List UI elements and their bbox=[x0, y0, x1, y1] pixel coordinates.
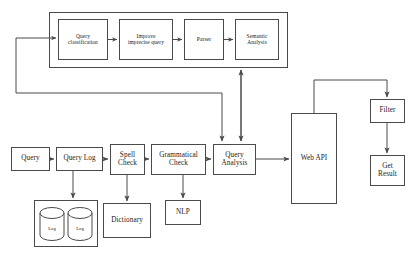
node-query-classification[interactable]: Queryclassification bbox=[58, 19, 108, 60]
node-web-api[interactable]: Web API bbox=[291, 113, 337, 204]
node-dictionary[interactable]: Dictionary bbox=[103, 203, 151, 238]
node-parser[interactable]: Parser bbox=[184, 19, 224, 60]
cylinder-log-store-2[interactable]: Log bbox=[67, 207, 93, 241]
edge-understanding-group-to-query-analysis-bus bbox=[16, 93, 222, 141]
database-icon bbox=[39, 207, 65, 241]
node-query-log[interactable]: Query Log bbox=[56, 147, 103, 171]
node-query[interactable]: Query bbox=[11, 147, 50, 171]
node-nlp[interactable]: NLP bbox=[165, 200, 201, 225]
cylinder-log-store-2-label: Log bbox=[67, 226, 93, 231]
node-query-analysis[interactable]: QueryAnalysis bbox=[213, 144, 256, 175]
cylinder-log-store-1[interactable]: Log bbox=[39, 207, 65, 241]
node-grammatical-check[interactable]: GrammaticalCheck bbox=[151, 144, 206, 175]
database-icon bbox=[67, 207, 93, 241]
node-semantic-analysis[interactable]: SemanticAnalysis bbox=[235, 19, 279, 60]
node-spell-check[interactable]: SpellCheck bbox=[110, 144, 145, 175]
node-improve-imprecise-query[interactable]: Improveimprecise query bbox=[119, 19, 173, 60]
diagram-canvas: Queryclassification Improveimprecise que… bbox=[0, 0, 420, 257]
node-get-result[interactable]: GetResult bbox=[370, 155, 405, 186]
node-filter[interactable]: Filter bbox=[370, 99, 405, 123]
cylinder-log-store-1-label: Log bbox=[39, 226, 65, 231]
